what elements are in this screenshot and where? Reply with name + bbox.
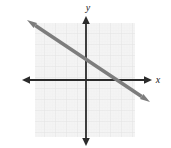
graph-canvas: x y	[0, 0, 171, 148]
coordinate-plane-figure: x y	[0, 0, 171, 148]
x-axis-label: x	[155, 74, 161, 85]
y-axis-label: y	[85, 2, 91, 13]
x-axis-left-arrowhead	[22, 76, 30, 84]
y-axis-top-arrowhead	[82, 16, 90, 24]
y-axis-bottom-arrowhead	[82, 138, 90, 146]
x-axis-right-arrowhead	[144, 76, 152, 84]
